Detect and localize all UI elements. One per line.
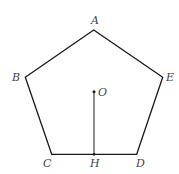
label-vertex-a: A (90, 14, 99, 27)
label-foot-h: H (89, 157, 100, 170)
label-center-o: O (98, 86, 107, 99)
pentagon-diagram: A B C D E O H (0, 0, 179, 174)
label-vertex-d: D (135, 157, 145, 170)
label-vertex-b: B (11, 71, 20, 84)
label-vertex-c: C (43, 157, 52, 170)
center-point-o (93, 90, 96, 93)
label-vertex-e: E (165, 71, 174, 84)
foot-point-h (93, 153, 96, 156)
